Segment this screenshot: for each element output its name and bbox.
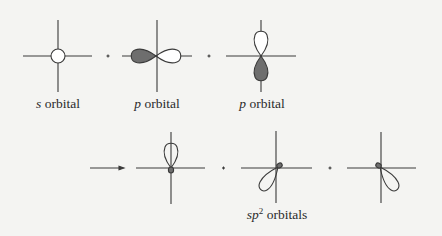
s-orbital-label: s orbital (36, 96, 80, 112)
p-orbital-vertical-label: p orbital (239, 96, 284, 112)
arrow-right (90, 166, 124, 170)
plus-sign-4 (329, 167, 332, 170)
plus-sign-3 (222, 167, 225, 170)
sp2-orbital-3-diagram (347, 132, 416, 203)
p-orbital-horizontal-diagram (122, 20, 192, 92)
sp2-large-lobe (259, 167, 278, 191)
sp2-orbital-2-diagram (241, 131, 312, 203)
p-orbital-vertical-diagram (226, 20, 296, 92)
sp2-small-lobe (168, 167, 173, 173)
s-orbital-diagram (23, 20, 92, 92)
p-lobe-negative (131, 49, 156, 63)
plus-sign-2 (208, 55, 211, 58)
s-orbital-sphere (51, 49, 65, 63)
sp2-orbitals-label: sp2 orbitals (247, 207, 307, 223)
plus-sign-1 (107, 55, 110, 58)
sp2-large-lobe (380, 167, 399, 191)
p-lobe-positive (156, 49, 181, 63)
p-lobe-positive (254, 31, 268, 56)
sp2-orbital-1-diagram (136, 132, 205, 204)
orbital-hybridization-diagram (0, 0, 442, 236)
p-lobe-negative (254, 56, 268, 81)
p-orbital-horizontal-label: p orbital (134, 96, 179, 112)
